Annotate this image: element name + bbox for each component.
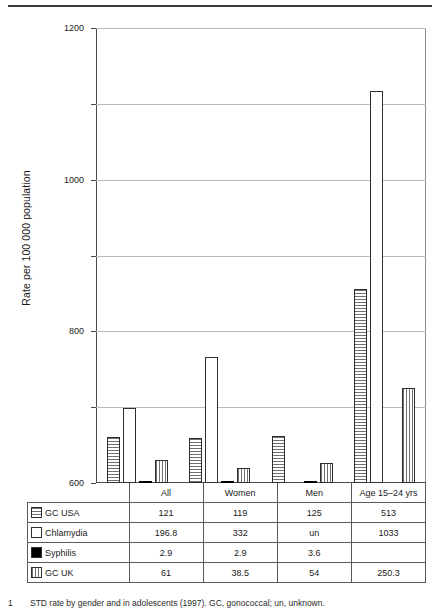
bar (272, 436, 285, 483)
bar-group (344, 28, 427, 483)
table-cell: 196.8 (129, 523, 203, 543)
table-row-header: GC UK (28, 563, 130, 583)
table-cell (351, 543, 425, 563)
legend-label: Chlamydia (45, 528, 88, 538)
caption-text: STD rate by gender and in adolescents (1… (30, 598, 325, 608)
table-cell: 61 (129, 563, 203, 583)
y-axis-tick-label: 1200 (64, 23, 84, 33)
table-cell: 54 (277, 563, 351, 583)
y-axis-title: Rate per 100 000 population (20, 58, 32, 418)
figure-caption: 1STD rate by gender and in adolescents (… (8, 598, 432, 608)
table-row: Syphilis2.92.93.6 (28, 543, 426, 563)
bar (320, 463, 333, 483)
data-table: AllWomenMenAge 15–24 yrsGC USA1211191255… (27, 483, 426, 583)
bar (123, 408, 136, 483)
figure-top-rule (8, 5, 432, 7)
bar (205, 357, 218, 483)
table-cell: 1033 (351, 523, 425, 543)
table-cell: 3.6 (277, 543, 351, 563)
legend-label: GC UK (45, 568, 74, 578)
table-column-header: Age 15–24 yrs (351, 483, 425, 503)
table-cell: un (277, 523, 351, 543)
bar (155, 460, 168, 483)
table-cell: 332 (203, 523, 277, 543)
table-cell: 119 (203, 503, 277, 523)
bar-group (261, 28, 344, 483)
vertical-lines-swatch (31, 567, 42, 578)
figure-container: Rate per 100 000 population 120010008006… (0, 0, 437, 608)
data-table-wrapper: AllWomenMenAge 15–24 yrsGC USA1211191255… (27, 483, 426, 583)
table-row: Chlamydia196.8332un1033 (28, 523, 426, 543)
table-cell: 2.9 (129, 543, 203, 563)
table-row-header: GC USA (28, 503, 130, 523)
bar (237, 468, 250, 483)
y-axis-tick-label: 1000 (64, 175, 84, 185)
table-cell: 38.5 (203, 563, 277, 583)
table-cell: 2.9 (203, 543, 277, 563)
table-cell: 250.3 (351, 563, 425, 583)
table-column-header: Men (277, 483, 351, 503)
legend-label: Syphilis (45, 548, 76, 558)
bar (189, 438, 202, 483)
empty-white-swatch (31, 527, 42, 538)
legend-label: GC USA (45, 508, 80, 518)
table-row: GC UK6138.554250.3 (28, 563, 426, 583)
bar (354, 289, 367, 484)
bars-layer (96, 28, 426, 483)
bar (107, 437, 120, 483)
horizontal-lines-swatch (31, 507, 42, 518)
solid-black-swatch (31, 547, 42, 558)
table-cell: 121 (129, 503, 203, 523)
table-column-header: All (129, 483, 203, 503)
y-axis-tick-label: 800 (69, 326, 84, 336)
caption-number: 1 (8, 598, 30, 608)
table-row-header: Chlamydia (28, 523, 130, 543)
bar (370, 91, 383, 483)
bar-group (96, 28, 179, 483)
table-cell: 513 (351, 503, 425, 523)
table-corner-cell (28, 483, 130, 503)
table-header-row: AllWomenMenAge 15–24 yrs (28, 483, 426, 503)
table-row-header: Syphilis (28, 543, 130, 563)
table-column-header: Women (203, 483, 277, 503)
bar-group (179, 28, 262, 483)
table-cell: 125 (277, 503, 351, 523)
table-row: GC USA121119125513 (28, 503, 426, 523)
plot-area: 120010008006004002000 (96, 28, 426, 483)
bar (402, 388, 415, 483)
